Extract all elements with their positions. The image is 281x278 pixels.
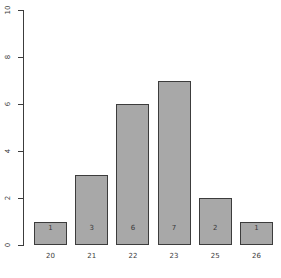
bar-value-label: 2 [200,224,231,232]
bar-value-label: 7 [159,224,190,232]
x-axis-label: 23 [154,252,195,261]
bar: 1 [240,222,273,246]
barplot-figure: 0246810 136721 202122232526 [0,0,281,278]
bar-value-label: 3 [76,224,107,232]
bar: 3 [75,175,108,246]
x-axis-label: 22 [112,252,153,261]
plot-area: 0246810 136721 202122232526 [0,0,281,278]
bar: 1 [34,222,67,246]
bars-layer: 136721 [0,0,281,278]
x-axis-label: 20 [30,252,71,261]
bar-value-label: 1 [241,224,272,232]
x-axis-label: 21 [71,252,112,261]
x-axis-label: 26 [236,252,277,261]
bar: 2 [199,198,232,245]
bar: 7 [158,81,191,246]
bar-value-label: 1 [35,224,66,232]
x-axis-label: 25 [195,252,236,261]
bar: 6 [116,104,149,245]
bar-value-label: 6 [117,224,148,232]
